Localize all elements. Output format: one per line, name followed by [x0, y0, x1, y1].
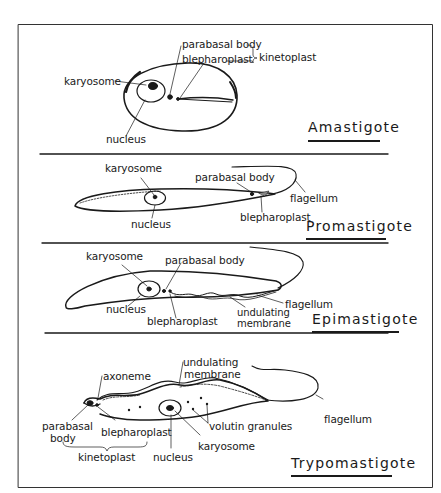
title-underline-epimastigote: [312, 331, 399, 333]
trypanosomatid-stages-diagram: karyosome nucleus parabasal body blephar…: [0, 0, 441, 493]
trypomastigote-parabasal-body: [87, 401, 93, 406]
trypomastigote-label-karyosome: karyosome: [198, 441, 255, 452]
trypomastigote-label-body: body: [50, 433, 76, 444]
trypomastigote-label-volutin-granules: volutin granules: [209, 421, 292, 432]
amastigote-label-nucleus: nucleus: [106, 134, 146, 145]
title-underline-amastigote: [308, 140, 380, 142]
promastigote-parabasal-body: [250, 192, 253, 195]
epimastigote-label-blepharoplast: blepharoplast: [147, 316, 218, 327]
promastigote-label-flagellum: flagellum: [290, 193, 338, 204]
promastigote-label-karyosome: karyosome: [105, 163, 162, 174]
trypomastigote-label-flagellum: flagellum: [324, 414, 372, 425]
amastigote-label-kinetoplast: kinetoplast: [259, 52, 316, 63]
amastigote-label-blepharoplast: blepharoplast: [182, 54, 253, 65]
epimastigote-label-undulating: undulating: [237, 308, 290, 318]
trypomastigote-blepharoplast: [96, 404, 99, 407]
epimastigote-parabasal-body: [163, 290, 166, 293]
stage-title-amastigote: Amastigote: [308, 119, 400, 135]
trypomastigote-label-blepharoplast: blepharoplast: [101, 427, 172, 438]
amastigote-label-karyosome: karyosome: [64, 76, 121, 87]
trypomastigote-label-undulating: undulating: [183, 357, 238, 368]
promastigote-label-parabasal-body: parabasal body: [195, 172, 275, 183]
promastigote-label-blepharoplast: blepharoplast: [240, 212, 311, 223]
epimastigote-karyosome: [147, 287, 151, 291]
title-underline-trypomastigote: [291, 475, 392, 477]
promastigote-karyosome: [153, 195, 157, 199]
trypomastigote-karyosome: [167, 406, 174, 411]
trypomastigote-label-parabasal: parabasal: [42, 421, 93, 432]
trypomastigote-flagellum: [252, 366, 318, 401]
epimastigote-label-karyosome: karyosome: [86, 251, 143, 262]
stage-title-trypomastigote: Trypomastigote: [291, 455, 416, 471]
amastigote-karyosome: [149, 83, 158, 90]
trypomastigote-label-axoneme: axoneme: [103, 371, 151, 382]
amastigote-parabasal-body: [168, 95, 173, 100]
stage-title-epimastigote: Epimastigote: [312, 311, 418, 327]
epimastigote-label-parabasal-body: parabasal body: [165, 255, 245, 266]
epimastigote-label-membrane: membrane: [237, 319, 291, 329]
trypomastigote-label-membrane: membrane: [184, 369, 241, 380]
epimastigote-label-flagellum: flagellum: [285, 299, 333, 310]
trypomastigote-label-kinetoplast: kinetoplast: [78, 452, 135, 463]
title-underline-promastigote: [306, 238, 386, 240]
amastigote-label-parabasal-body: parabasal body: [182, 39, 262, 50]
epimastigote-label-nucleus: nucleus: [106, 304, 146, 315]
stage-title-promastigote: Promastigote: [306, 218, 413, 234]
promastigote-label-nucleus: nucleus: [131, 219, 171, 230]
trypomastigote-label-nucleus: nucleus: [153, 452, 193, 463]
